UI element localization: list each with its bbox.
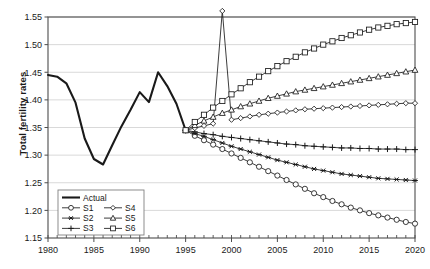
data-point-square [376,25,381,30]
data-point-square [348,33,353,38]
chart-figure: Total fertility rates 1.151.201.251.301.… [0,0,430,269]
fertility-rates-line-chart: 1.151.201.251.301.351.401.451.501.551980… [0,0,430,269]
y-tick-label: 1.55 [24,12,42,22]
data-point-square [111,226,116,231]
data-point-square [275,64,280,69]
data-point-circle [403,219,408,224]
data-point-square [330,39,335,44]
data-point-square [183,128,188,133]
data-point-square [385,23,390,28]
y-tick-label: 1.50 [24,40,42,50]
y-tick-label: 1.30 [24,150,42,160]
x-tick-label: 1990 [130,245,150,255]
legend-label: S3 [83,223,94,233]
data-point-circle [229,151,234,156]
x-tick-label: 2020 [405,245,425,255]
x-tick-label: 1985 [84,245,104,255]
data-point-circle [256,164,261,169]
y-tick-label: 1.45 [24,68,42,78]
data-point-square [311,46,316,51]
data-point-square [229,92,234,97]
x-tick-label: 2010 [313,245,333,255]
data-point-square [367,27,372,32]
data-point-diamond [220,8,225,13]
data-point-circle [394,217,399,222]
data-point-circle [376,213,381,218]
data-point-circle [357,208,362,213]
y-tick-label: 1.35 [24,123,42,133]
x-tick-label: 2005 [267,245,287,255]
data-point-square [339,35,344,40]
legend-label: S2 [83,213,94,223]
data-point-circle [367,211,372,216]
legend-label: S4 [125,203,136,213]
legend-label: S1 [83,203,94,213]
data-point-circle [247,160,252,165]
data-point-circle [311,191,316,196]
legend-label: S5 [125,213,136,223]
data-point-circle [275,173,280,178]
data-point-circle [293,182,298,187]
data-point-square [211,105,216,110]
data-point-circle [211,142,216,147]
data-point-circle [220,146,225,151]
data-point-square [220,98,225,103]
data-point-square [403,20,408,25]
data-point-square [321,42,326,47]
data-point-circle [238,155,243,160]
x-tick-label: 1980 [38,245,58,255]
data-point-circle [321,195,326,200]
y-tick-label: 1.15 [24,233,42,243]
x-tick-label: 2015 [359,245,379,255]
data-point-circle [266,169,271,174]
y-tick-label: 1.20 [24,206,42,216]
data-point-circle [412,221,417,226]
data-point-square [238,86,243,91]
data-point-square [192,119,197,124]
legend: ActualS1S4S2S5S3S6 [58,190,144,235]
y-tick-label: 1.25 [24,178,42,188]
data-point-circle [330,198,335,203]
y-tick-label: 1.40 [24,95,42,105]
data-point-square [201,112,206,117]
data-point-square [394,22,399,27]
data-point-square [266,69,271,74]
x-tick-label: 2000 [221,245,241,255]
data-point-circle [348,205,353,210]
data-point-square [284,59,289,64]
data-point-square [302,50,307,55]
data-point-square [293,54,298,59]
data-point-circle [69,205,74,210]
data-point-circle [385,215,390,220]
data-point-circle [302,186,307,191]
legend-label: S6 [125,223,136,233]
data-point-square [412,19,417,24]
data-point-square [247,80,252,85]
x-tick-label: 1995 [176,245,196,255]
data-point-square [357,30,362,35]
data-point-circle [284,177,289,182]
data-point-circle [339,202,344,207]
data-point-square [256,74,261,79]
legend-label: Actual [83,193,107,203]
